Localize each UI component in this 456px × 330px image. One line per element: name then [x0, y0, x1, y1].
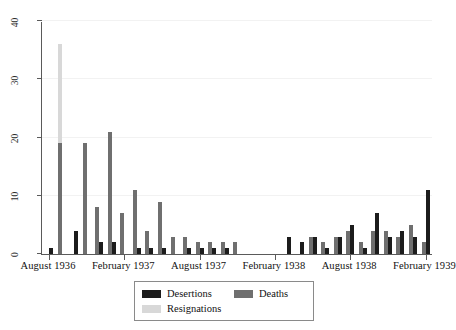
- bar-desertions-1938-10: [375, 213, 379, 254]
- bar-desertions-1938-12: [400, 231, 404, 254]
- y-axis-tick-label: 20: [10, 126, 21, 152]
- y-gridline: [42, 137, 432, 138]
- legend-label-desertions: Desertions: [167, 287, 212, 300]
- legend-row: Desertions Deaths: [142, 286, 307, 301]
- bar-desertions-1938-09: [363, 248, 367, 254]
- bar-desertions-1939-01: [413, 237, 417, 254]
- x-axis-tick-label: February 1937: [92, 260, 155, 271]
- legend-swatch-desertions-icon: [142, 290, 161, 298]
- y-axis-tick: [37, 195, 42, 196]
- bar-deaths-1937-01: [108, 132, 112, 254]
- bar-desertions-1937-04: [149, 248, 153, 254]
- bar-deaths-1937-06: [171, 237, 175, 254]
- bar-desertions-1937-05: [162, 248, 166, 254]
- y-gridline: [42, 78, 432, 79]
- legend-item-resignations: Resignations: [142, 302, 234, 315]
- bar-desertions-1936-10: [74, 231, 78, 254]
- x-axis: August 1936February 1937August 1937Febru…: [0, 260, 440, 276]
- x-axis-tick-label: August 1938: [322, 260, 377, 271]
- y-axis-tick: [37, 78, 42, 79]
- x-axis-tick-label: February 1939: [393, 260, 456, 271]
- bar-desertions-1938-06: [325, 248, 329, 254]
- bar-desertions-1938-04: [300, 242, 304, 254]
- chart-legend: Desertions Deaths Resignations: [134, 281, 314, 321]
- bar-desertions-1937-01: [112, 242, 116, 254]
- bar-desertions-1936-12: [99, 242, 103, 254]
- bar-desertions-1938-07: [338, 237, 342, 254]
- bar-desertions-1937-10: [225, 248, 229, 254]
- x-axis-tick-label: August 1937: [171, 260, 226, 271]
- bar-desertions-1938-03: [287, 237, 291, 254]
- bar-desertions-1937-08: [200, 248, 204, 254]
- y-axis: 0 10 20 30 40: [0, 22, 41, 255]
- legend-label-deaths: Deaths: [259, 287, 288, 300]
- y-axis-tick-label: 40: [10, 10, 21, 36]
- y-axis-tick-label: 30: [10, 68, 21, 94]
- legend-swatch-deaths-icon: [234, 290, 253, 298]
- y-axis-tick: [37, 20, 42, 21]
- bar-deaths-1936-09: [58, 143, 62, 254]
- y-axis-tick: [37, 137, 42, 138]
- legend-label-resignations: Resignations: [167, 302, 221, 315]
- bar-desertions-1939-02: [426, 190, 430, 254]
- y-gridline: [42, 20, 432, 21]
- y-gridline: [42, 195, 432, 196]
- bar-desertions-1938-05: [313, 237, 317, 254]
- bar-desertions-1937-03: [137, 248, 141, 254]
- bar-desertions-1938-11: [388, 237, 392, 254]
- legend-swatch-resignations-icon: [142, 305, 161, 313]
- x-axis-tick-label: August 1936: [20, 260, 75, 271]
- bar-deaths-1937-03: [133, 190, 137, 254]
- legend-row: Resignations: [142, 301, 307, 316]
- bar-desertions-1938-08: [350, 225, 354, 254]
- bar-desertions-1937-07: [187, 248, 191, 254]
- y-axis-tick-label: 10: [10, 184, 21, 210]
- bar-deaths-1937-02: [120, 213, 124, 254]
- legend-item-desertions: Desertions: [142, 287, 234, 300]
- bar-deaths-1936-11: [83, 143, 87, 254]
- legend-item-deaths: Deaths: [234, 287, 288, 300]
- y-axis-tick: [37, 253, 42, 254]
- bar-desertions-1937-09: [212, 248, 216, 254]
- bar-desertions-1936-08: [49, 248, 53, 254]
- plot-area: [41, 22, 432, 255]
- x-axis-tick-label: February 1938: [242, 260, 305, 271]
- bar-deaths-1937-11: [233, 242, 237, 254]
- bar-deaths-1937-05: [158, 202, 162, 254]
